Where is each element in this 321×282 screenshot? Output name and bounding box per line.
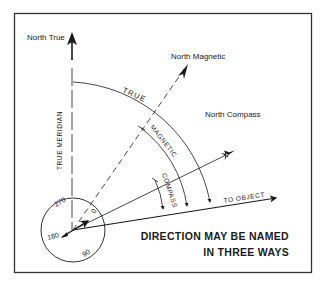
north-compass-label: North Compass [205, 110, 261, 119]
to-object-label: TO OBJECT [223, 191, 265, 204]
compass-arc-label: COMPASS [161, 172, 179, 209]
north-true-label: North True [27, 33, 65, 42]
direction-diagram: North True TRUE MERIDIAN North Magnetic … [0, 0, 321, 282]
compass-north-line [73, 155, 226, 230]
true-arc-label: TRUE [121, 86, 148, 104]
true-meridian-label: TRUE MERIDIAN [56, 111, 63, 170]
true-meridian-line [67, 32, 77, 230]
caption-line-2: IN THREE WAYS [203, 246, 289, 258]
needle-tail-icon [61, 232, 68, 238]
north-magnetic-arrow-icon [178, 64, 188, 79]
north-magnetic-label: North Magnetic [171, 52, 225, 61]
compass-mark-270: 270 [53, 196, 67, 208]
compass-mark-90: 90 [81, 248, 91, 258]
compass-mark-180: 180 [46, 231, 59, 241]
magnetic-arc-label: MAGNETIC [149, 123, 179, 158]
fleur-de-lis-icon [220, 146, 237, 161]
caption-line-1: DIRECTION MAY BE NAMED [141, 230, 289, 242]
compass-arc [155, 180, 163, 209]
